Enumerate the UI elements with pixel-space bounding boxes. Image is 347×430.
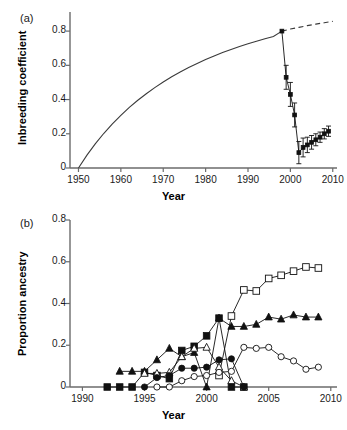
panel-a-data-point [310, 140, 314, 144]
marker-filled-circle [154, 375, 160, 381]
panel-a-data-point [327, 129, 331, 133]
marker-filled-triangle [128, 367, 135, 374]
panel-b-y-tick-label: 0.2 [26, 338, 66, 349]
marker-open-square [315, 265, 322, 272]
panel-a-y-tick-label: 0.6 [26, 58, 66, 69]
panel-b-x-tick-label: 2005 [247, 393, 291, 404]
panel-a-data-point [322, 132, 326, 136]
panel-a-data-point [288, 93, 292, 97]
marker-open-square [303, 264, 310, 271]
panel-a-solid-curve [78, 31, 281, 168]
panel-b-y-tick-label: 0.6 [26, 255, 66, 266]
marker-filled-square [104, 384, 111, 391]
marker-filled-triangle [290, 311, 297, 318]
marker-open-square [278, 272, 285, 279]
marker-filled-circle [191, 365, 197, 371]
marker-open-circle [166, 384, 172, 390]
panel-b-x-tick-label: 2000 [185, 393, 229, 404]
marker-filled-circle [204, 364, 210, 370]
panel-a-data-point [314, 138, 318, 142]
panel-b-x-tick-label: 2010 [309, 393, 347, 404]
panel-a-x-tick-label: 1980 [184, 174, 228, 185]
marker-filled-triangle [315, 313, 322, 320]
marker-filled-circle [141, 384, 147, 390]
panel-a-data-point [280, 29, 284, 33]
marker-open-square [290, 268, 297, 275]
panel-a-data-point [293, 113, 297, 117]
marker-filled-circle [228, 356, 234, 362]
marker-open-square [265, 275, 272, 282]
panel-a-data-point [305, 143, 309, 147]
marker-open-circle [315, 364, 321, 370]
panel-a-data-point [301, 146, 305, 150]
panel-a-x-tick-label: 1990 [226, 174, 270, 185]
panel-a-y-tick-label: 0.2 [26, 127, 66, 138]
marker-filled-triangle [153, 356, 160, 363]
figure-container: (a) Inbreeding coefficient Year 00.20.40… [0, 0, 347, 430]
marker-filled-square [203, 333, 210, 340]
panel-a-x-tick-label: 1970 [141, 174, 185, 185]
marker-filled-circle [166, 372, 172, 378]
panel-a-x-tick-label: 1960 [99, 174, 143, 185]
panel-a-y-tick-label: 0.4 [26, 93, 66, 104]
marker-open-square [241, 287, 248, 294]
marker-open-circle [278, 354, 284, 360]
panel-a: (a) Inbreeding coefficient Year 00.20.40… [0, 0, 347, 215]
marker-open-circle [266, 344, 272, 350]
panel-b-plot [0, 215, 347, 430]
marker-open-circle [290, 358, 296, 364]
marker-filled-triangle [265, 313, 272, 320]
marker-open-triangle [203, 343, 210, 350]
panel-a-data-point [297, 151, 301, 155]
marker-open-square [253, 288, 260, 295]
marker-filled-square [228, 384, 235, 391]
panel-a-data-point [284, 75, 288, 79]
marker-open-circle [216, 369, 222, 375]
marker-open-circle [204, 372, 210, 378]
panel-a-x-tick-label: 2000 [268, 174, 312, 185]
marker-open-circle [303, 366, 309, 372]
marker-filled-square [129, 384, 136, 391]
marker-open-circle [253, 345, 259, 351]
panel-a-data-point [318, 135, 322, 139]
panel-b-x-tick-label: 1990 [60, 393, 104, 404]
panel-b-x-tick-label: 1995 [123, 393, 167, 404]
panel-b-y-tick-label: 0.4 [26, 297, 66, 308]
marker-filled-circle [179, 365, 185, 371]
marker-filled-triangle [166, 344, 173, 351]
panel-a-dashed-curve [282, 21, 333, 31]
panel-b-y-tick-label: 0 [26, 380, 66, 391]
panel-a-x-tick-label: 1950 [56, 174, 100, 185]
panel-a-observed-line [282, 31, 329, 152]
marker-open-circle [241, 344, 247, 350]
marker-filled-circle [216, 357, 222, 363]
panel-b-y-tick-label: 0.8 [26, 213, 66, 224]
marker-filled-triangle [116, 367, 123, 374]
panel-b: (b) Proportion ancestry Year 00.20.40.60… [0, 215, 347, 430]
marker-filled-triangle [253, 320, 260, 327]
marker-open-circle [154, 384, 160, 390]
marker-filled-square [116, 384, 123, 391]
panel-a-x-tick-label: 2010 [311, 174, 347, 185]
marker-open-square [228, 313, 235, 320]
marker-open-circle [228, 368, 234, 374]
marker-filled-circle [241, 384, 247, 390]
panel-a-y-tick-label: 0.8 [26, 24, 66, 35]
marker-open-circle [179, 378, 185, 384]
marker-open-circle [191, 373, 197, 379]
panel-a-y-tick-label: 0 [26, 161, 66, 172]
